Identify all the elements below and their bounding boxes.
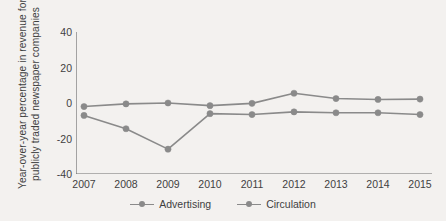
x-axis-tick-label: 2013 xyxy=(324,178,347,190)
x-axis-tick-label: 2011 xyxy=(241,178,264,190)
x-axis-tick-labels: 200720082009201020112012201320142015 xyxy=(76,178,432,194)
x-axis-tick-label: 2008 xyxy=(114,178,137,190)
line-marker-icon xyxy=(237,199,261,209)
y-axis-tick-label: -20 xyxy=(57,133,72,145)
y-axis-title: Year-over-year percentage in revenue for… xyxy=(11,7,47,182)
legend-label-advertising: Advertising xyxy=(159,198,211,210)
line-chart: Year-over-year percentage in revenue for… xyxy=(0,0,446,221)
legend-label-circulation: Circulation xyxy=(266,198,316,210)
x-axis-tick-label: 2007 xyxy=(72,178,95,190)
x-axis-tick-label: 2014 xyxy=(366,178,389,190)
line-marker-icon xyxy=(130,199,154,209)
y-axis-tick-label: 0 xyxy=(66,97,72,109)
y-axis-tick-labels: 40200-20-40 xyxy=(44,32,72,174)
legend-item-circulation[interactable]: Circulation xyxy=(237,198,316,210)
y-axis-title-line-1: Year-over-year percentage in revenue for xyxy=(16,0,29,189)
plot-svg xyxy=(76,32,432,174)
y-axis-tick-label: 20 xyxy=(60,62,72,74)
plot-area xyxy=(76,32,432,174)
x-axis-tick-label: 2012 xyxy=(282,178,305,190)
y-axis-title-line-2: publicly traded newspaper companies xyxy=(29,7,42,181)
chart-legend: Advertising Circulation xyxy=(0,198,446,210)
x-axis-tick-label: 2015 xyxy=(408,178,431,190)
x-axis-tick-label: 2010 xyxy=(198,178,221,190)
legend-item-advertising[interactable]: Advertising xyxy=(130,198,211,210)
x-axis-tick-label: 2009 xyxy=(156,178,179,190)
y-axis-tick-label: 40 xyxy=(60,26,72,38)
y-axis-tick-label: -40 xyxy=(57,168,72,180)
